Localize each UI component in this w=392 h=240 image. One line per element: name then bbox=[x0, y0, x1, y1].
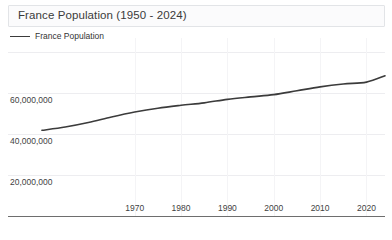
chart-canvas bbox=[0, 0, 392, 240]
y-axis-tick-label: 60,000,000 bbox=[10, 95, 53, 105]
x-axis-tick-label: 2000 bbox=[264, 203, 283, 213]
vertical-gridlines-group bbox=[136, 38, 367, 216]
france-population-chart-widget: France Population (1950 - 2024) France P… bbox=[0, 0, 392, 240]
gridlines-group bbox=[8, 53, 385, 176]
x-axis-tick-label: 1980 bbox=[172, 203, 191, 213]
x-axis-tick-label: 2010 bbox=[311, 203, 330, 213]
clipped-footer-caption bbox=[88, 231, 318, 240]
series-line-france-population bbox=[42, 76, 385, 131]
x-axis-tick-label: 2020 bbox=[357, 203, 376, 213]
y-axis-tick-label: 40,000,000 bbox=[10, 136, 53, 146]
x-axis-tick-label: 1970 bbox=[125, 203, 144, 213]
x-axis-tick-label: 1990 bbox=[218, 203, 237, 213]
y-axis-tick-label: 20,000,000 bbox=[10, 177, 53, 187]
plot-area: 60,000,00040,000,00020,000,000 197019801… bbox=[0, 0, 392, 240]
